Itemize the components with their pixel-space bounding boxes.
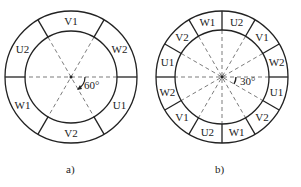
winding-label-u1: U1: [270, 86, 283, 98]
winding-label-u2: U2: [16, 43, 29, 55]
caption-a: a): [66, 163, 75, 176]
winding-label-w1: W1: [15, 99, 31, 111]
angle-annotation-a: 60°: [77, 77, 99, 91]
center-point: [70, 76, 73, 79]
sector-divider: [263, 44, 279, 54]
sector-divider: [38, 20, 48, 37]
sector-divider: [246, 118, 256, 134]
winding-label-w2: W2: [112, 43, 128, 55]
winding-label-u2: U2: [230, 16, 243, 28]
winding-diagram-canvas: W2V1U2W1V2U1 W2V1U2W1V2U1W2V1U2W1V2U1 60…: [0, 0, 301, 187]
sector-divider: [94, 20, 104, 37]
winding-label-u2: U2: [201, 126, 214, 138]
winding-label-v1: V1: [255, 31, 268, 43]
winding-label-v1: V1: [64, 15, 77, 27]
winding-label-v1: V1: [175, 111, 188, 123]
sector-divider: [246, 20, 256, 36]
winding-label-v2: V2: [64, 127, 77, 139]
winding-label-v2: V2: [175, 31, 188, 43]
winding-label-w1: W1: [199, 16, 215, 28]
sector-divider: [189, 20, 199, 36]
sector-divider: [263, 101, 279, 111]
figure-a-six-pole-layout: W2V1U2W1V2U1: [5, 11, 137, 143]
figure-b-twelve-pole-layout: W2V1U2W1V2U1W2V1U2W1V2U1: [156, 11, 288, 143]
sector-divider: [189, 118, 199, 134]
sector-divider: [38, 117, 48, 134]
angle-label-60: 60°: [84, 79, 99, 91]
caption-b: b): [215, 163, 225, 176]
angle-arc-30-icon: [234, 77, 236, 84]
winding-label-w2: W2: [269, 56, 285, 68]
sector-divider: [94, 117, 104, 134]
winding-label-w2: W2: [159, 86, 175, 98]
winding-label-v2: V2: [255, 111, 268, 123]
center-point: [221, 76, 224, 79]
sector-divider: [165, 44, 181, 54]
winding-label-u1: U1: [113, 99, 126, 111]
sector-divider: [165, 101, 181, 111]
angle-label-30: 30°: [240, 75, 255, 87]
winding-label-w1: W1: [229, 126, 245, 138]
winding-label-u1: U1: [161, 56, 174, 68]
